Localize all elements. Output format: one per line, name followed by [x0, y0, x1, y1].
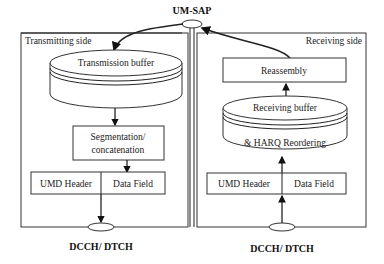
receiving-buffer: Receiving buffer & HARQ Reordering: [223, 96, 347, 149]
tx-channel-label: DCCH/ DTCH: [69, 241, 133, 252]
reassembly-label: Reassembly: [261, 66, 307, 76]
receiving-side-label: Receiving side: [306, 36, 362, 46]
rx-channel-port: [269, 223, 295, 231]
rx-umd-header: UMD Header: [218, 179, 271, 189]
rx-data-field: Data Field: [294, 179, 334, 189]
tx-channel-port: [88, 223, 114, 231]
transmitting-side-label: Transmitting side: [25, 36, 91, 46]
segmentation-label-2: concatenation: [92, 145, 145, 155]
rlc-um-diagram: UM-SAP Transmitting side Receiving side …: [0, 0, 384, 264]
um-sap-label: UM-SAP: [173, 5, 212, 16]
tx-data-field: Data Field: [113, 179, 153, 189]
transmission-buffer: Transmission buffer: [50, 50, 182, 108]
segmentation-label-1: Segmentation/: [91, 132, 146, 142]
receiving-buffer-label-1: Receiving buffer: [253, 103, 318, 113]
rx-channel-label: DCCH/ DTCH: [250, 243, 314, 254]
transmission-buffer-label: Transmission buffer: [78, 58, 155, 68]
um-sap-port: [182, 20, 202, 28]
receiving-buffer-label-2: & HARQ Reordering: [244, 138, 326, 148]
tx-umd-header: UMD Header: [40, 179, 93, 189]
